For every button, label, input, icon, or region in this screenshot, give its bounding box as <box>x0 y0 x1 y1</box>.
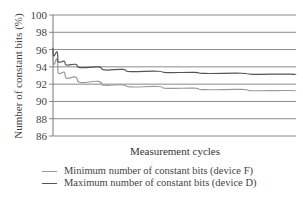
legend: Minimum number of constant bits (device … <box>40 165 256 189</box>
y-tick-label: 96 <box>36 44 48 56</box>
legend-item-device-f: Minimum number of constant bits (device … <box>40 165 256 177</box>
y-tick-label: 92 <box>36 78 47 90</box>
y-tick-label: 94 <box>36 61 48 73</box>
y-tick-label: 100 <box>31 9 48 21</box>
y-tick-label: 98 <box>36 26 48 38</box>
x-axis-label: Measurement cycles <box>130 145 220 157</box>
legend-label: Minimum number of constant bits (device … <box>64 165 253 177</box>
y-axis-ticks: 10098969492908886 <box>31 9 48 142</box>
y-tick-label: 90 <box>36 95 48 107</box>
legend-label: Maximum number of constant bits (device … <box>64 177 256 189</box>
y-tick-label: 86 <box>36 130 48 142</box>
legend-swatch-dark <box>42 183 57 184</box>
legend-item-device-d: Maximum number of constant bits (device … <box>40 177 256 189</box>
legend-swatch-light <box>42 171 57 172</box>
y-axis-label: Number of constant bits (%) <box>12 13 25 139</box>
series-line <box>53 48 296 75</box>
gridlines <box>49 15 296 136</box>
y-tick-label: 88 <box>36 113 48 125</box>
